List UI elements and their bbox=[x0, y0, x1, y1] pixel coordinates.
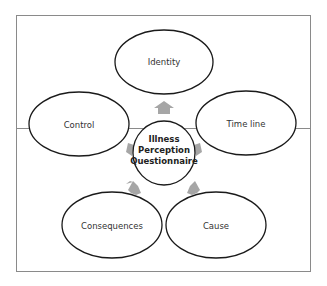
center-label-line-3: Questionnaire bbox=[130, 156, 198, 166]
arrow-to-cause-icon bbox=[187, 181, 200, 195]
node-identity: Identity bbox=[115, 30, 213, 94]
arrow-to-consequences-icon bbox=[126, 181, 141, 195]
node-control: Control bbox=[29, 92, 129, 156]
node-control-label: Control bbox=[64, 120, 95, 130]
node-cause: Cause bbox=[166, 192, 266, 258]
node-timeline-label: Time line bbox=[226, 119, 266, 129]
arrow-to-identity-icon bbox=[154, 101, 174, 114]
diagram-canvas: Identity Control Time line Consequences … bbox=[0, 0, 327, 286]
node-consequences: Consequences bbox=[62, 192, 162, 258]
center-node: Illness Perception Questionnaire bbox=[130, 121, 198, 185]
center-label-line-1: Illness bbox=[149, 134, 180, 144]
node-consequences-label: Consequences bbox=[81, 221, 143, 231]
node-cause-label: Cause bbox=[203, 221, 229, 231]
node-timeline: Time line bbox=[196, 91, 296, 155]
node-identity-label: Identity bbox=[148, 57, 181, 67]
center-label-line-2: Perception bbox=[138, 145, 190, 155]
